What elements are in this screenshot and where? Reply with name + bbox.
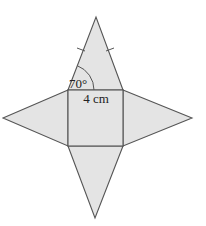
- bottom-triangle-face: [68, 146, 123, 218]
- side-length-label: 4 cm: [83, 91, 109, 106]
- right-triangle-face: [123, 90, 192, 146]
- left-triangle-face: [3, 90, 68, 146]
- pyramid-net-diagram: 70° 4 cm: [0, 0, 206, 226]
- angle-label: 70°: [69, 76, 87, 91]
